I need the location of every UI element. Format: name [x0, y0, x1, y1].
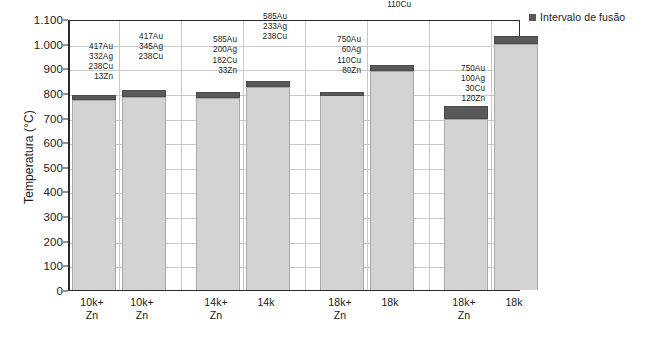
composition-line: 182Cu	[196, 56, 237, 66]
bar-composition-label: 417Au332Ag238Cu13Zn	[72, 42, 113, 83]
x-axis-label-line2: Zn	[110, 309, 174, 322]
bar-composition-label: 585Au233Ag238Cu	[246, 12, 287, 43]
bar-body	[320, 95, 364, 290]
x-axis-tick-label: 18k	[358, 296, 422, 309]
composition-line: 110Cu	[370, 0, 411, 10]
bar-body	[122, 97, 166, 290]
composition-line: 60Ag	[320, 45, 361, 55]
bar-composition-label: 750Au100Ag30Cu120Zn	[444, 64, 485, 105]
bar-melting-range-cap	[196, 92, 240, 98]
bar-body	[246, 87, 290, 290]
composition-line: 238Cu	[122, 52, 163, 62]
bar-body	[494, 44, 538, 290]
composition-line: 585Au	[196, 35, 237, 45]
bar-melting-range-cap	[370, 65, 414, 71]
y-axis-tick-label: 800	[5, 88, 63, 100]
composition-line: 100Ag	[444, 74, 485, 84]
x-axis-tick-label: 10k+Zn	[110, 296, 174, 321]
y-axis-tick-label: 600	[5, 137, 63, 149]
composition-line: 30Cu	[444, 84, 485, 94]
y-axis-tick-mark	[63, 143, 68, 144]
bar[interactable]: 585Au233Ag238Cu	[246, 81, 290, 290]
x-axis-label-line1: 18k	[358, 296, 422, 309]
x-axis-tick-label: 18k	[482, 296, 546, 309]
y-axis-tick-label: 500	[5, 162, 63, 174]
plot-area: 417Au332Ag238Cu13Zn417Au345Ag238Cu585Au2…	[68, 20, 520, 291]
composition-line: 750Au	[444, 64, 485, 74]
bar-composition-label: 417Au345Ag238Cu	[122, 32, 163, 63]
y-axis-tick-label: 300	[5, 211, 63, 223]
bar[interactable]: 750Au220Ag30Cu	[494, 36, 538, 290]
y-axis-tick-mark	[63, 20, 68, 21]
y-axis-tick-mark	[63, 241, 68, 242]
composition-line: 233Ag	[246, 22, 287, 32]
y-axis-tick-label: 1.100	[5, 14, 63, 26]
bar-group: 417Au332Ag238Cu13Zn417Au345Ag238Cu585Au2…	[70, 21, 519, 290]
legend-swatch-melting-range	[529, 14, 536, 21]
legend: Intervalo de fusão	[529, 11, 625, 23]
composition-line: 417Au	[122, 32, 163, 42]
y-axis-tick-labels: 1.1001.0009008007006005004003002001000	[0, 0, 63, 340]
x-axis-label-line1: 18k	[482, 296, 546, 309]
y-axis-tick-label: 100	[5, 260, 63, 272]
bar-melting-range-cap	[320, 92, 364, 96]
bar-body	[370, 71, 414, 290]
bar-composition-label: 750Au60Ag110Cu80Zn	[320, 35, 361, 76]
composition-line: 332Ag	[72, 52, 113, 62]
y-axis-tick-label: 1.000	[5, 39, 63, 51]
y-axis-tick-label: 400	[5, 186, 63, 198]
bar-melting-range-cap	[122, 90, 166, 96]
bar[interactable]: 417Au332Ag238Cu13Zn	[72, 95, 116, 290]
x-axis-tick-label: 14k	[234, 296, 298, 309]
bar-melting-range-cap	[72, 95, 116, 100]
bar[interactable]: 585Au200Ag182Cu33Zn	[196, 92, 240, 290]
y-axis-tick-label: 900	[5, 63, 63, 75]
y-axis-tick-mark	[63, 44, 68, 45]
x-axis-label-line1: 14k	[234, 296, 298, 309]
composition-line: 110Cu	[320, 56, 361, 66]
composition-line: 33Zn	[196, 66, 237, 76]
bar-composition-label: 750Au140Ag110Cu	[370, 0, 411, 11]
bar-melting-range-cap	[494, 36, 538, 43]
y-axis-tick-mark	[63, 167, 68, 168]
y-axis-tick-mark	[63, 93, 68, 94]
y-axis-tick-mark	[63, 291, 68, 292]
composition-line: 120Zn	[444, 94, 485, 104]
composition-line: 238Cu	[246, 32, 287, 42]
y-axis-tick-mark	[63, 118, 68, 119]
composition-line: 585Au	[246, 12, 287, 22]
y-axis-tick-label: 200	[5, 236, 63, 248]
composition-line: 238Cu	[72, 62, 113, 72]
bar[interactable]: 750Au140Ag110Cu	[370, 65, 414, 290]
legend-label-melting-range: Intervalo de fusão	[540, 11, 625, 23]
bar-body	[196, 98, 240, 290]
composition-line: 417Au	[72, 42, 113, 52]
x-axis-label-line1: 10k+	[110, 296, 174, 309]
bar-body	[444, 119, 488, 290]
bar-melting-range-cap	[246, 81, 290, 87]
composition-line: 80Zn	[320, 66, 361, 76]
bar[interactable]: 750Au60Ag110Cu80Zn	[320, 92, 364, 290]
x-axis-label-line2: Zn	[308, 309, 372, 322]
y-axis-tick-mark	[63, 192, 68, 193]
bar-melting-range-cap	[444, 106, 488, 118]
composition-line: 13Zn	[72, 72, 113, 82]
y-axis-tick-mark	[63, 69, 68, 70]
x-axis-label-line2: Zn	[184, 309, 248, 322]
y-axis-tick-mark	[63, 266, 68, 267]
composition-line: 750Au	[320, 35, 361, 45]
x-axis-label-line2: Zn	[432, 309, 496, 322]
composition-line: 345Ag	[122, 42, 163, 52]
x-axis-tick-labels: 10k+Zn10k+Zn14k+Zn14k18k+Zn18k18k+Zn18k	[0, 296, 651, 336]
bar[interactable]: 750Au100Ag30Cu120Zn	[444, 106, 488, 290]
chart-root: Temperatura (°C) 1.1001.0009008007006005…	[0, 0, 651, 340]
y-axis-tick-mark	[63, 217, 68, 218]
bar-body	[72, 100, 116, 290]
bar-composition-label: 585Au200Ag182Cu33Zn	[196, 35, 237, 76]
composition-line: 200Ag	[196, 45, 237, 55]
y-axis-tick-label: 700	[5, 113, 63, 125]
bar[interactable]: 417Au345Ag238Cu	[122, 90, 166, 290]
